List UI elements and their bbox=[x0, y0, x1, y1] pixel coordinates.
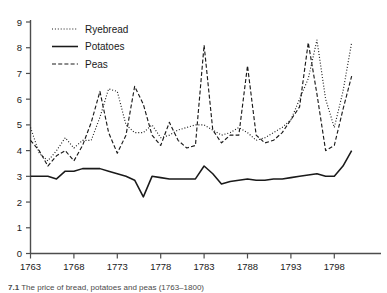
series-line-peas bbox=[31, 43, 352, 166]
figure-container: 0123456789 17631768177317781783178817931… bbox=[0, 0, 387, 293]
chart-series-group bbox=[31, 40, 352, 197]
legend-label-peas: Peas bbox=[85, 59, 108, 70]
y-tick-label: 2 bbox=[17, 197, 22, 208]
y-tick-label: 7 bbox=[17, 68, 22, 79]
y-tick-label: 4 bbox=[17, 145, 22, 156]
chart-axes bbox=[31, 20, 382, 254]
y-tick-label: 3 bbox=[17, 171, 22, 182]
x-tick-label: 1793 bbox=[280, 261, 301, 272]
x-axis-ticks: 17631768177317781783178817931798 bbox=[20, 254, 345, 272]
figure-caption-text: The price of bread, potatoes and peas (1… bbox=[21, 283, 204, 292]
y-tick-label: 5 bbox=[17, 119, 22, 130]
series-line-ryebread bbox=[31, 40, 352, 161]
y-axis-ticks: 0123456789 bbox=[17, 17, 31, 260]
y-tick-label: 1 bbox=[17, 222, 22, 233]
x-tick-label: 1773 bbox=[107, 261, 128, 272]
line-chart: 0123456789 17631768177317781783178817931… bbox=[0, 0, 387, 293]
y-tick-label: 9 bbox=[17, 17, 22, 28]
chart-legend: RyebreadPotatoesPeas bbox=[52, 24, 128, 70]
x-tick-label: 1788 bbox=[237, 261, 258, 272]
y-tick-label: 6 bbox=[17, 94, 22, 105]
x-tick-label: 1798 bbox=[324, 261, 345, 272]
x-tick-label: 1783 bbox=[194, 261, 215, 272]
legend-label-potatoes: Potatoes bbox=[85, 41, 124, 52]
x-tick-label: 1768 bbox=[63, 261, 84, 272]
y-tick-label: 8 bbox=[17, 42, 22, 53]
x-tick-label: 1778 bbox=[150, 261, 171, 272]
y-tick-label: 0 bbox=[17, 248, 22, 259]
figure-number: 7.1 bbox=[8, 283, 19, 292]
x-tick-label: 1763 bbox=[20, 261, 41, 272]
legend-label-ryebread: Ryebread bbox=[85, 24, 128, 35]
series-line-potatoes bbox=[31, 151, 352, 197]
figure-caption: 7.1 The price of bread, potatoes and pea… bbox=[8, 283, 383, 292]
